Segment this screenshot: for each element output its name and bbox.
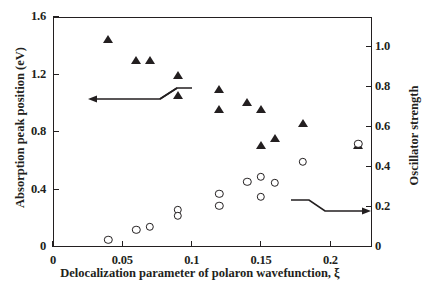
data-point-absorption-peak <box>270 134 280 142</box>
data-point-absorption-peak <box>256 141 266 149</box>
y-axis-right-tick-label: 0.4 <box>375 159 415 174</box>
data-point-oscillator-strength <box>215 202 223 210</box>
y-axis-left-tick-label: 0.4 <box>6 182 46 197</box>
x-axis-tick-label: 0.2 <box>307 253 353 268</box>
data-point-oscillator-strength <box>215 190 223 198</box>
x-axis-tick-label: 0.1 <box>169 253 215 268</box>
data-point-absorption-peak <box>242 98 252 106</box>
x-axis-tick-label: 0.05 <box>99 253 145 268</box>
left-axis-pointer-arrow <box>88 84 196 106</box>
data-point-absorption-peak <box>173 71 183 79</box>
data-point-oscillator-strength <box>257 193 265 201</box>
data-point-oscillator-strength <box>174 212 182 220</box>
y-axis-right-tick-label: 1.0 <box>375 39 415 54</box>
x-axis-tick-label: 0.15 <box>238 253 284 268</box>
y-axis-right-tick-label: 0.8 <box>375 79 415 94</box>
y-axis-right-tick-label: 0 <box>375 239 415 254</box>
x-axis-title: Delocalization parameter of polaron wave… <box>0 266 400 281</box>
data-point-absorption-peak <box>298 119 308 127</box>
x-axis-tick-label: 0 <box>30 253 76 268</box>
data-point-absorption-peak <box>214 85 224 93</box>
data-point-oscillator-strength <box>146 223 154 231</box>
data-point-oscillator-strength <box>298 158 306 166</box>
y-axis-left-tick-label: 0.8 <box>6 124 46 139</box>
y-axis-right-tick-label: 0.2 <box>375 199 415 214</box>
y-axis-left-tick-label: 0 <box>6 239 46 254</box>
y-axis-right-tick-label: 0.6 <box>375 119 415 134</box>
right-axis-pointer-arrow <box>289 194 371 216</box>
data-point-absorption-peak <box>145 56 155 64</box>
data-point-absorption-peak <box>256 105 266 113</box>
y-axis-left-tick-label: 1.6 <box>6 9 46 24</box>
y-axis-left-tick-label: 1.2 <box>6 67 46 82</box>
data-point-oscillator-strength <box>271 179 279 187</box>
data-point-oscillator-strength <box>132 226 140 234</box>
data-point-oscillator-strength <box>104 236 112 244</box>
data-point-oscillator-strength <box>257 173 265 181</box>
x-axis-title-text: Delocalization parameter of polaron wave… <box>60 266 339 280</box>
data-point-oscillator-strength <box>243 178 251 186</box>
scatter-chart-figure: Absorption peak position (eV) Oscillator… <box>0 0 424 291</box>
data-point-absorption-peak <box>131 56 141 64</box>
data-point-absorption-peak <box>214 105 224 113</box>
data-point-absorption-peak <box>103 35 113 43</box>
